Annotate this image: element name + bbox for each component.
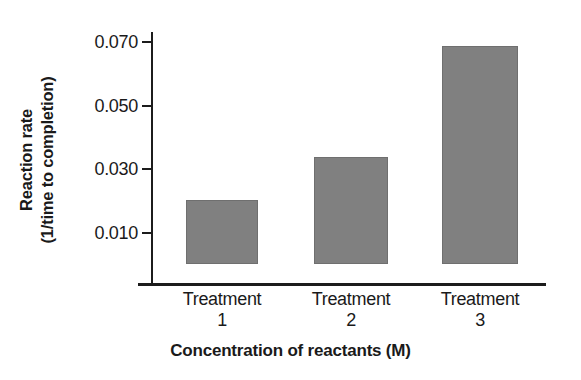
x-axis-line [138, 283, 546, 286]
y-tick-label-0050: 0.050 [50, 97, 138, 115]
y-axis-tick-mark-0010 [142, 232, 152, 234]
y-axis-tick-mark-0030 [142, 168, 152, 170]
y-tick-label-0010: 0.010 [50, 224, 138, 242]
y-axis-tick-mark-0070 [142, 41, 152, 43]
y-axis-tick-labels: 0.010 0.030 0.050 0.070 [40, 0, 138, 380]
bar-treatment-2 [314, 157, 388, 264]
y-axis-line [151, 32, 153, 284]
x-category-label-3: Treatment 3 [416, 289, 544, 331]
x-axis-title: Concentration of reactants (M) [0, 341, 581, 361]
bar-treatment-3 [442, 46, 518, 264]
x-category-label-2: Treatment 2 [287, 289, 415, 331]
y-tick-label-0070: 0.070 [50, 33, 138, 51]
bar-chart-figure: Reaction rate (1/time to completion) 0.0… [0, 0, 581, 380]
y-tick-label-0030: 0.030 [50, 160, 138, 178]
y-axis-title-line1: Reaction rate [16, 76, 37, 243]
x-category-label-1: Treatment 1 [158, 289, 286, 331]
bar-treatment-1 [186, 200, 258, 264]
y-axis-tick-mark-0050 [142, 105, 152, 107]
